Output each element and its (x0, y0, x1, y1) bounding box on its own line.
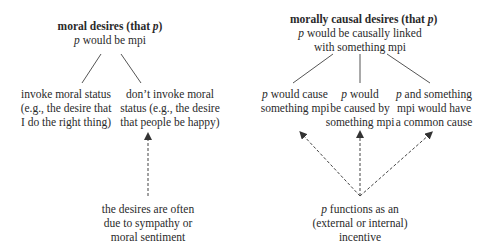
right-cause-incentive: p functions as an (external or internal)… (305, 202, 415, 244)
edge-right-3 (387, 54, 430, 83)
right-tree-title: morally causal desires (that p) (290, 12, 430, 26)
left-tree-title: moral desires (that p) (50, 19, 170, 33)
left-cause-sympathy: the desires are often due to sympathy or… (98, 202, 198, 244)
arrow-right-3 (360, 134, 430, 196)
edge-right-1 (293, 54, 333, 83)
arrow-right-1 (302, 134, 360, 196)
left-tree-subtitle: p would be mpi (50, 33, 170, 47)
right-child-would-cause: p would cause something mpi (258, 87, 332, 115)
left-child-invoke-moral-status: invoke moral status (e.g., the desire th… (10, 87, 122, 129)
right-tree-subtitle: p would be causally linked with somethin… (290, 26, 430, 54)
right-child-common-cause: p and something mpi would have a common … (392, 87, 476, 129)
right-child-caused-by: p would be caused by something mpi (322, 87, 398, 129)
edge-left-1 (82, 54, 101, 83)
left-child-dont-invoke: don’t invoke moral status (e.g., the des… (110, 87, 230, 129)
edge-left-2 (121, 54, 141, 83)
